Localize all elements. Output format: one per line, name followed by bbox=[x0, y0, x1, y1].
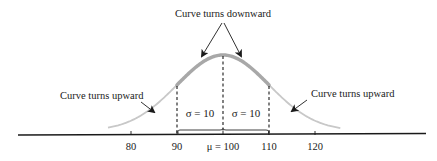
x-axis-tick-labels: 8090μ = 100110120 bbox=[126, 141, 323, 152]
annotation-turns-downward: Curve turns downward bbox=[175, 8, 272, 19]
arrow-upward-right bbox=[292, 100, 307, 111]
x-tick-label: 90 bbox=[172, 141, 183, 152]
sigma-label-right: σ = 10 bbox=[232, 107, 261, 119]
annotation-turns-upward-left: Curve turns upward bbox=[60, 90, 144, 101]
x-axis bbox=[18, 134, 426, 136]
sd-dashed-lines bbox=[177, 56, 269, 133]
normal-curve-chart: 8090μ = 100110120 σ = 10 σ = 10 Curve tu… bbox=[0, 0, 437, 161]
arrow-downward-left bbox=[202, 23, 222, 56]
x-tick-label: 110 bbox=[261, 141, 276, 152]
arrow-downward-right bbox=[224, 23, 241, 56]
annotation-turns-upward-right: Curve turns upward bbox=[311, 88, 395, 99]
x-tick-label: μ = 100 bbox=[207, 141, 240, 152]
x-tick-label: 120 bbox=[307, 141, 323, 152]
x-tick-label: 80 bbox=[126, 141, 137, 152]
sigma-label-left: σ = 10 bbox=[186, 107, 215, 119]
